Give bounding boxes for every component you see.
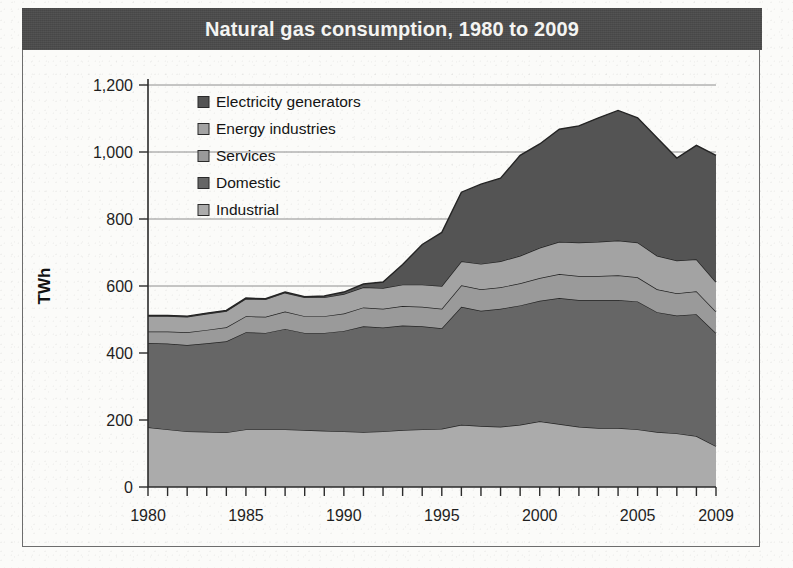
legend-item[interactable]: Electricity generators (198, 93, 361, 110)
x-axis-tick-label: 1990 (326, 507, 362, 524)
legend-item[interactable]: Energy industries (198, 120, 336, 137)
legend-label: Electricity generators (216, 93, 361, 110)
page-title: Natural gas consumption, 1980 to 2009 (205, 18, 579, 41)
x-axis-tick-label: 1980 (130, 507, 166, 524)
legend-label: Energy industries (216, 120, 336, 137)
legend-item[interactable]: Domestic (198, 174, 281, 191)
legend-swatch (198, 151, 209, 162)
y-axis-tick-label: 1,000 (93, 144, 133, 161)
y-axis-tick-label: 800 (106, 211, 133, 228)
x-axis-tick-label: 2009 (698, 507, 734, 524)
y-axis-tick-label: 400 (106, 345, 133, 362)
area-bands (148, 110, 716, 487)
legend-swatch (198, 97, 209, 108)
chart-title-bar: Natural gas consumption, 1980 to 2009 (22, 8, 762, 50)
legend-item[interactable]: Industrial (198, 201, 279, 218)
stacked-area-chart: 02004006008001,0001,200 1980198519901995… (22, 50, 762, 548)
y-axis-tick-label: 600 (106, 278, 133, 295)
legend-swatch (198, 178, 209, 189)
y-axis-ticks: 02004006008001,0001,200 (93, 77, 148, 496)
legend-label: Industrial (216, 201, 279, 218)
x-axis-ticks: 1980198519901995200020052009 (130, 487, 734, 524)
x-axis-tick-label: 1985 (228, 507, 264, 524)
figure: Natural gas consumption, 1980 to 2009 02… (22, 8, 762, 548)
y-axis-title: TWh (35, 268, 54, 305)
legend-label: Services (216, 147, 276, 164)
chart-legend: Electricity generatorsEnergy industriesS… (198, 93, 361, 218)
y-axis-tick-label: 1,200 (93, 77, 133, 94)
x-axis-tick-label: 1995 (424, 507, 460, 524)
y-axis-tick-label: 200 (106, 412, 133, 429)
legend-label: Domestic (216, 174, 281, 191)
y-axis-tick-label: 0 (124, 479, 133, 496)
x-axis-tick-label: 2005 (620, 507, 656, 524)
legend-item[interactable]: Services (198, 147, 276, 164)
legend-swatch (198, 124, 209, 135)
x-axis-tick-label: 2000 (522, 507, 558, 524)
legend-swatch (198, 205, 209, 216)
